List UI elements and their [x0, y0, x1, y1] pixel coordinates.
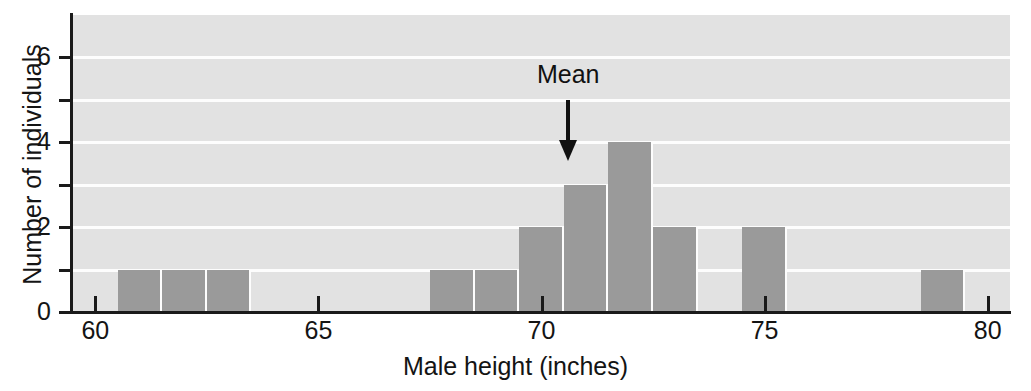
- histogram-bar: [564, 185, 609, 312]
- x-axis-tick-label: 65: [283, 318, 353, 343]
- histogram-bar: [430, 270, 475, 312]
- x-axis-tick: [987, 296, 990, 312]
- histogram-bar: [162, 270, 207, 312]
- histogram-bar: [608, 142, 653, 312]
- plot-area: [73, 15, 1010, 312]
- histogram-bar: [207, 270, 252, 312]
- y-axis-tick: [59, 311, 73, 314]
- histogram-bar: [653, 227, 698, 312]
- y-axis-title: Number of individuals: [18, 15, 47, 315]
- x-axis-tick: [317, 296, 320, 312]
- y-axis-tick: [59, 99, 73, 102]
- gridline: [73, 99, 1010, 102]
- gridline: [73, 141, 1010, 144]
- histogram-figure: 02466065707580 Number of individuals Mal…: [0, 0, 1031, 391]
- x-axis-tick: [541, 296, 544, 312]
- x-axis-tick: [94, 296, 97, 312]
- gridline: [73, 184, 1010, 187]
- x-axis-tick-label: 70: [507, 318, 577, 343]
- histogram-bar: [118, 270, 163, 312]
- y-axis-tick: [59, 56, 73, 59]
- y-axis-tick: [59, 269, 73, 272]
- histogram-bar: [475, 270, 520, 312]
- x-axis-tick-label: 75: [730, 318, 800, 343]
- histogram-bar: [921, 270, 966, 312]
- x-axis-tick: [764, 296, 767, 312]
- gridline: [73, 56, 1010, 59]
- y-axis-tick: [59, 184, 73, 187]
- x-axis-tick-label: 60: [60, 318, 130, 343]
- y-axis-tick: [59, 226, 73, 229]
- x-axis-title: Male height (inches): [0, 352, 1031, 381]
- y-axis-tick: [59, 141, 73, 144]
- x-axis-tick-label: 80: [953, 318, 1023, 343]
